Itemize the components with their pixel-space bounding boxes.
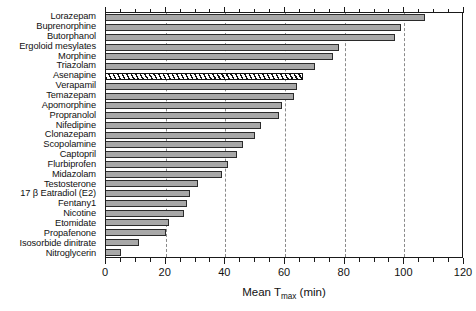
x-tick-minor [418,258,419,262]
x-tick-minor [374,258,375,262]
bar-row [106,169,462,179]
x-tick-label: 20 [159,266,171,279]
x-tick-minor-top [359,9,360,13]
bar [105,53,333,60]
x-tick-minor [388,258,389,262]
bar-row [106,13,462,23]
x-tick-minor [209,258,210,262]
x-tick-minor-top [254,9,255,13]
x-tick-minor [314,258,315,262]
x-tick-minor-top [239,9,240,13]
x-tick-minor-top [269,9,270,13]
bar [105,73,303,80]
bar-row [106,101,462,111]
bar [105,102,282,109]
x-tick-minor [195,258,196,262]
bar [105,34,395,41]
bar [105,112,279,119]
x-tick-label: 40 [218,266,230,279]
bar-row [106,228,462,238]
bar [105,132,255,139]
x-axis-ticks-bottom [105,258,463,265]
category-label: Propafenone [0,229,100,239]
x-tick-major-top [284,7,285,13]
bar-row [106,120,462,130]
bar-row [106,159,462,169]
bar [105,83,297,90]
x-tick-major [403,258,404,264]
bar [105,24,401,31]
x-tick-minor-top [209,9,210,13]
bar-row [106,33,462,43]
bar-row [106,208,462,218]
x-tick-major-top [403,7,404,13]
x-tick-label: 80 [338,266,350,279]
bar-row [106,238,462,248]
x-tick-minor-top [418,9,419,13]
bar [105,180,198,187]
x-tick-minor [329,258,330,262]
bar-row [106,111,462,121]
bar [105,239,139,246]
x-tick-label: 60 [278,266,290,279]
x-tick-major [463,258,464,264]
x-tick-label: 100 [394,266,412,279]
bar [105,229,166,236]
bar [105,14,425,21]
bar-row [106,189,462,199]
bar-row [106,72,462,82]
bar [105,171,222,178]
category-label: Ergoloid mesylates [0,42,100,52]
x-tick-minor-top [195,9,196,13]
x-tick-minor-top [299,9,300,13]
x-tick-minor [180,258,181,262]
bar-row [106,179,462,189]
category-label: Nitroglycerin [0,248,100,258]
category-label: Propranolol [0,110,100,120]
x-tick-major [165,258,166,264]
category-label: Apomorphine [0,101,100,111]
x-tick-minor [254,258,255,262]
x-tick-label: 0 [102,266,108,279]
bar [105,44,339,51]
x-tick-minor [269,258,270,262]
bar-row [106,42,462,52]
x-tick-minor-top [374,9,375,13]
x-tick-major-top [165,7,166,13]
category-label-column: LorazepamBuprenorphineButorphanolErgoloi… [0,12,100,258]
x-tick-major [284,258,285,264]
x-tick-minor [299,258,300,262]
bar-row [106,130,462,140]
x-tick-minor-top [314,9,315,13]
x-tick-minor-top [120,9,121,13]
bar [105,141,243,148]
bar-row [106,91,462,101]
bar-row [106,52,462,62]
x-tick-major-top [105,7,106,13]
bar [105,249,121,256]
x-tick-major-top [344,7,345,13]
bar [105,200,187,207]
bar [105,151,237,158]
bar-row [106,247,462,257]
mean-tmax-bar-chart: LorazepamBuprenorphineButorphanolErgoloi… [0,0,476,311]
bar-row [106,23,462,33]
bar [105,63,315,70]
x-tick-major [105,258,106,264]
x-tick-minor-top [329,9,330,13]
x-tick-minor-top [150,9,151,13]
x-tick-label: 120 [454,266,472,279]
x-tick-minor [120,258,121,262]
bar [105,122,261,129]
x-tick-minor-top [135,9,136,13]
x-tick-major-top [224,7,225,13]
x-axis-ticks-top [105,6,463,13]
x-tick-major-top [463,7,464,13]
x-axis-title-subscript: max [281,292,296,301]
x-tick-minor-top [448,9,449,13]
x-tick-minor [448,258,449,262]
x-tick-major [224,258,225,264]
bar-row [106,199,462,209]
x-tick-minor [433,258,434,262]
bar [105,93,294,100]
